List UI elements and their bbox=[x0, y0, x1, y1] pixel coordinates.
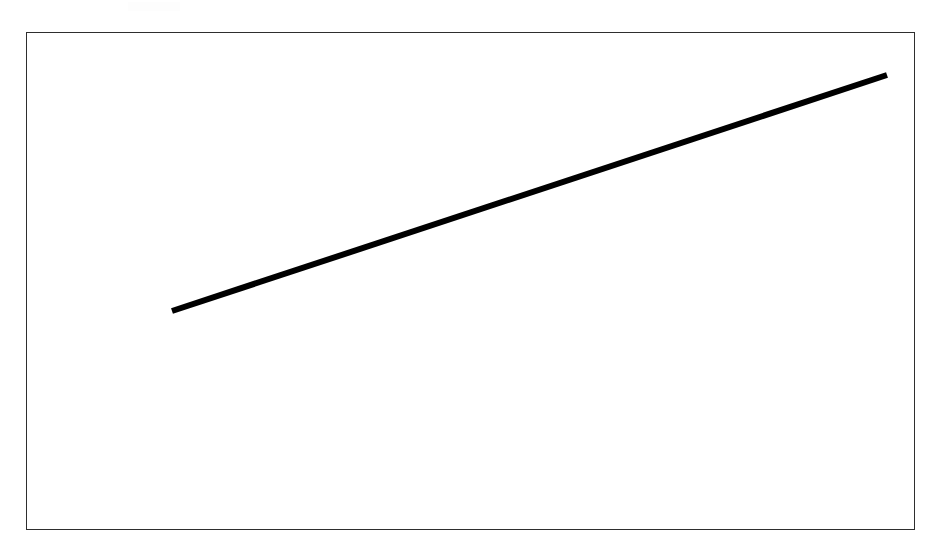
figure-root bbox=[0, 0, 945, 558]
scan-artifact bbox=[128, 2, 180, 11]
plot-border-frame bbox=[26, 32, 915, 530]
